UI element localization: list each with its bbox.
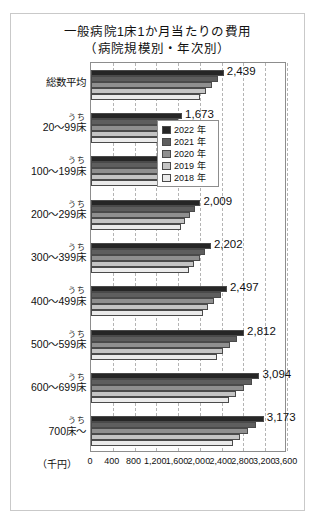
axis-tick-label: 0: [87, 456, 92, 466]
bar-group: [91, 200, 285, 230]
category-label: うち100〜199床: [31, 157, 86, 176]
legend-label: 2018 年: [174, 171, 206, 184]
bar-row: [91, 354, 287, 360]
bar: [91, 224, 181, 230]
legend-item: 2021 年: [162, 136, 215, 147]
category-label-text: 200〜299床: [31, 209, 86, 220]
bar-row: [91, 440, 287, 446]
bar-row: [91, 310, 287, 316]
legend-swatch-icon: [162, 150, 171, 158]
category-label-text: 700床〜: [48, 426, 86, 437]
axis-tick-label: 3,200: [253, 456, 276, 466]
chart-figure: 一般病院1床1か月当たりの費用 （病院規模別・年次別） 総数平均うち20〜99床…: [10, 13, 305, 511]
axis-tick-label: 2,000: [188, 456, 211, 466]
axis-tick-label: 400: [104, 456, 119, 466]
category-label-text: 400〜499床: [31, 296, 86, 307]
bar-group: [91, 286, 285, 316]
bar-group: [91, 330, 285, 360]
bar-row: [91, 267, 287, 273]
category-label-text: 100〜199床: [31, 166, 86, 177]
category-axis-labels: 総数平均うち20〜99床うち100〜199床うち200〜299床うち300〜39…: [11, 62, 88, 452]
category-label: うち400〜499床: [31, 287, 86, 306]
category-label-text: 500〜599床: [31, 339, 86, 350]
axis-tick-label: 800: [126, 456, 141, 466]
bar: [91, 267, 189, 273]
bar: [91, 354, 217, 360]
axis-tick-label: 2,800: [231, 456, 254, 466]
bar: [91, 137, 166, 143]
category-label-text: 300〜399床: [31, 252, 86, 263]
bar: [91, 180, 161, 186]
legend-item: 2020 年: [162, 148, 215, 159]
axis-unit-label: （千円）: [37, 456, 77, 471]
axis-tick-label: 2,400: [209, 456, 232, 466]
category-label-text: 20〜99床: [43, 122, 86, 133]
legend-item: 2019 年: [162, 160, 215, 171]
legend-swatch-icon: [162, 126, 171, 134]
legend-swatch-icon: [162, 174, 171, 182]
page-title: 一般病院1床1か月当たりの費用: [11, 24, 304, 41]
bar-group: [91, 243, 285, 273]
category-label: うち700床〜: [48, 417, 86, 436]
category-label: うち600〜699床: [31, 374, 86, 393]
bar-row: [91, 397, 287, 403]
gridline: [287, 63, 288, 451]
category-label-text: 600〜699床: [31, 382, 86, 393]
axis-tick-label: 3,600: [275, 456, 298, 466]
value-axis: （千円） 04008001,2001,6002,0002,4002,8003,2…: [11, 454, 306, 474]
category-label: うち300〜399床: [31, 244, 86, 263]
bar-group: [91, 373, 285, 403]
bar: [91, 397, 229, 403]
legend-item: 2022 年: [162, 124, 215, 135]
category-label: うち200〜299床: [31, 201, 86, 220]
bar-row: [91, 94, 287, 100]
bar-row: [91, 224, 287, 230]
category-label: うち500〜599床: [31, 331, 86, 350]
axis-tick-label: 1,600: [166, 456, 189, 466]
legend-swatch-icon: [162, 138, 171, 146]
bar-group: [91, 416, 285, 446]
category-label-text: 総数平均: [46, 77, 86, 88]
chart-subtitle: （病院規模別・年次別）: [11, 41, 304, 58]
bar: [91, 310, 203, 316]
category-label: 総数平均: [46, 77, 86, 88]
legend-swatch-icon: [162, 162, 171, 170]
bar: [91, 94, 200, 100]
axis-tick-label: 1,200: [144, 456, 167, 466]
category-label: うち20〜99床: [43, 114, 86, 133]
bar: [91, 440, 233, 446]
legend-item: 2018 年: [162, 172, 215, 183]
chart-legend: 2022 年2021 年2020 年2019 年2018 年: [157, 120, 219, 187]
chart-title-block: 一般病院1床1か月当たりの費用 （病院規模別・年次別）: [11, 24, 304, 58]
bar-group: [91, 70, 285, 100]
